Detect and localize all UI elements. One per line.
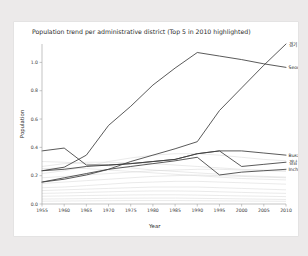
chart-figure: Population trend per administrative dist…	[14, 22, 298, 236]
highlighted-series-group	[42, 44, 286, 182]
y-tick-label: 0.2	[31, 173, 38, 178]
x-tick-label: 1980	[147, 208, 159, 213]
background-line	[42, 195, 286, 197]
x-tick-label: 1975	[125, 208, 137, 213]
x-tick-label: 1970	[103, 208, 115, 213]
x-tick-label: 1990	[191, 208, 203, 213]
background-line	[42, 191, 286, 193]
y-tick-label: 0.0	[31, 202, 38, 207]
chart-canvas[interactable]: Population trend per administrative dist…	[14, 22, 298, 236]
y-tick-label: 0.6	[31, 117, 38, 122]
chart-title: Population trend per administrative dist…	[32, 28, 251, 36]
series-label-경남: 경남	[289, 159, 298, 165]
highlighted-line-경남[interactable]	[42, 151, 286, 171]
y-tick-label: 0.4	[31, 145, 38, 150]
y-axis-ticks: 0.00.20.40.60.81.0	[31, 60, 42, 207]
x-tick-label: 1955	[36, 208, 48, 213]
series-label-Seoul: Seoul	[289, 65, 299, 70]
x-tick-label: 1995	[214, 208, 226, 213]
highlighted-line-경기[interactable]	[42, 44, 286, 182]
background-line	[42, 187, 286, 191]
y-tick-label: 0.8	[31, 88, 38, 93]
x-tick-label: 1965	[81, 208, 93, 213]
x-tick-label: 1985	[169, 208, 181, 213]
x-tick-label: 2000	[236, 208, 248, 213]
x-tick-label: 2005	[258, 208, 270, 213]
y-tick-label: 1.0	[31, 60, 38, 65]
series-label-Busan: Busan	[289, 153, 299, 158]
x-tick-label: 1960	[58, 208, 70, 213]
x-axis-title: Year	[148, 223, 161, 229]
x-axis-ticks: 1955196019651970197519801985199019952000…	[36, 204, 292, 213]
screenshot-root: Population trend per administrative dist…	[0, 0, 308, 256]
background-line	[42, 201, 286, 202]
series-endpoint-labels: 경기SeoulBusan경남Incheon	[289, 41, 299, 172]
y-axis-title: Population	[19, 110, 26, 138]
x-tick-label: 2010	[280, 208, 292, 213]
series-label-Incheon: Incheon	[289, 167, 299, 172]
series-label-경기: 경기	[289, 41, 297, 48]
highlighted-line-Seoul[interactable]	[42, 53, 286, 171]
background-line	[42, 162, 286, 171]
background-line	[42, 198, 286, 199]
